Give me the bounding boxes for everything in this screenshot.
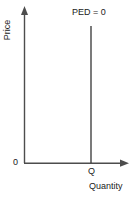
origin-label: 0 bbox=[13, 157, 18, 167]
y-axis-arrow-icon bbox=[21, 6, 28, 15]
x-tick-label-q: Q bbox=[88, 166, 95, 176]
chart-container: Price Quantity 0 Q PED = 0 bbox=[0, 0, 136, 199]
chart-plot-svg bbox=[0, 0, 136, 199]
ped-annotation-label: PED = 0 bbox=[72, 7, 106, 17]
x-axis-label: Quantity bbox=[89, 181, 123, 191]
x-axis-arrow-icon bbox=[120, 160, 129, 167]
y-axis-label: Price bbox=[2, 10, 12, 50]
